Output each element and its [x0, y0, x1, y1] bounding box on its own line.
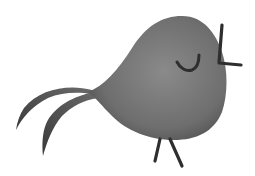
- tail-feather-lower: [42, 92, 98, 156]
- bird-body: [88, 16, 227, 140]
- tail-feathers: [16, 87, 98, 156]
- right-leg: [170, 139, 182, 166]
- bird-illustration: [0, 0, 255, 176]
- left-leg: [155, 139, 160, 161]
- legs: [155, 139, 182, 166]
